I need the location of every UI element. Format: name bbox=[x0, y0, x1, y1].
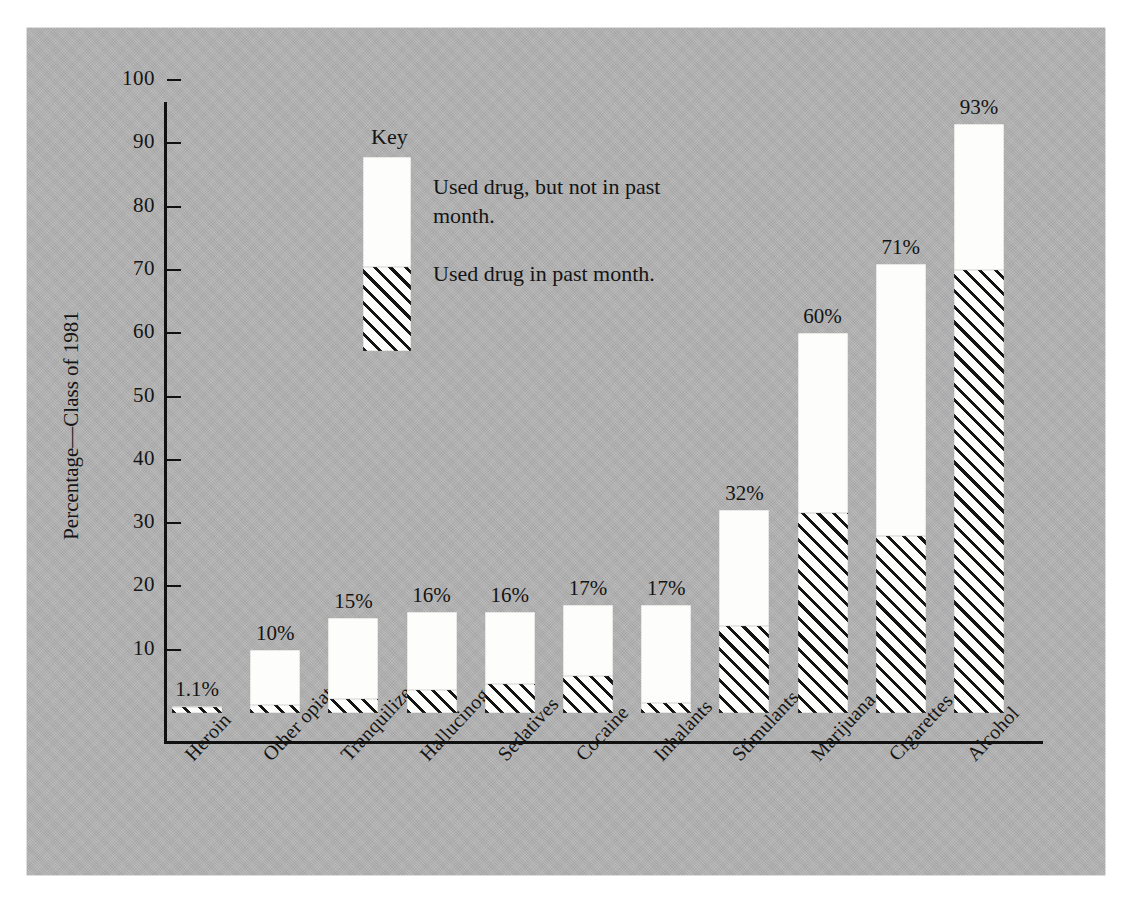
chart-panel: Percentage—Class of 1981 102030405060708… bbox=[27, 28, 1105, 875]
y-tick-label-70: 70 bbox=[109, 256, 155, 281]
bar-segment-white bbox=[798, 333, 848, 513]
y-tick-40 bbox=[167, 459, 181, 461]
legend-label-hatched: Used drug in past month. bbox=[433, 259, 683, 288]
y-tick-label-40: 40 bbox=[109, 446, 155, 471]
bar-segment-hatched bbox=[719, 626, 769, 713]
bar-alcohol[interactable]: 93% bbox=[954, 124, 1004, 713]
bar-segment-white bbox=[876, 264, 926, 536]
bar-segment-white bbox=[719, 510, 769, 625]
y-axis-line bbox=[164, 102, 167, 744]
bar-value-label: 60% bbox=[778, 304, 868, 329]
x-axis-label-heroin: Heroin bbox=[180, 708, 236, 765]
bar-other-opiates[interactable]: 10% bbox=[250, 650, 300, 713]
bar-value-label: 17% bbox=[621, 576, 711, 601]
bar-tranquilizers[interactable]: 15% bbox=[328, 618, 378, 713]
legend-title: Key bbox=[371, 124, 408, 150]
y-tick-80 bbox=[167, 206, 181, 208]
bar-value-label: 1.1% bbox=[152, 677, 242, 702]
bar-sedatives[interactable]: 16% bbox=[485, 612, 535, 713]
bar-segment-hatched bbox=[407, 690, 457, 713]
y-tick-30 bbox=[167, 522, 181, 524]
y-tick-label-80: 80 bbox=[109, 193, 155, 218]
bar-value-label: 71% bbox=[856, 235, 946, 260]
bar-segment-white bbox=[485, 612, 535, 684]
bar-segment-hatched bbox=[876, 536, 926, 713]
y-tick-100 bbox=[167, 79, 181, 81]
bar-inhalants[interactable]: 17% bbox=[641, 605, 691, 713]
bar-segment-white bbox=[250, 650, 300, 706]
bar-segment-hatched bbox=[485, 684, 535, 713]
bar-value-label: 93% bbox=[934, 95, 1024, 120]
y-tick-70 bbox=[167, 269, 181, 271]
bar-segment-white bbox=[328, 618, 378, 699]
y-tick-label-30: 30 bbox=[109, 509, 155, 534]
legend-label-white: Used drug, but not in past month. bbox=[433, 172, 683, 230]
y-tick-label-60: 60 bbox=[109, 319, 155, 344]
bar-value-label: 16% bbox=[465, 583, 555, 608]
y-axis-title: Percentage—Class of 1981 bbox=[59, 276, 84, 576]
bar-value-label: 15% bbox=[308, 589, 398, 614]
y-tick-label-90: 90 bbox=[109, 129, 155, 154]
bar-marijuana[interactable]: 60% bbox=[798, 333, 848, 713]
y-tick-label-20: 20 bbox=[109, 572, 155, 597]
y-tick-label-100: 100 bbox=[109, 66, 155, 91]
plot-area: Percentage—Class of 1981 102030405060708… bbox=[27, 28, 1105, 875]
bar-stimulants[interactable]: 32% bbox=[719, 510, 769, 713]
y-tick-50 bbox=[167, 396, 181, 398]
bar-value-label: 17% bbox=[543, 576, 633, 601]
bar-segment-hatched bbox=[798, 513, 848, 713]
bar-segment-white bbox=[641, 605, 691, 703]
bar-hallucinogens[interactable]: 16% bbox=[407, 612, 457, 713]
y-tick-90 bbox=[167, 142, 181, 144]
bar-segment-white bbox=[407, 612, 457, 690]
bar-value-label: 32% bbox=[699, 481, 789, 506]
bar-value-label: 10% bbox=[230, 621, 320, 646]
bar-segment-white bbox=[954, 124, 1004, 270]
y-tick-label-50: 50 bbox=[109, 383, 155, 408]
legend-swatch-white bbox=[363, 157, 411, 267]
y-tick-10 bbox=[167, 649, 181, 651]
bar-segment-hatched bbox=[563, 676, 613, 713]
legend-swatch-hatched bbox=[363, 267, 411, 351]
bar-value-label: 16% bbox=[387, 583, 477, 608]
y-tick-label-10: 10 bbox=[109, 636, 155, 661]
bar-segment-hatched bbox=[954, 270, 1004, 713]
bar-cocaine[interactable]: 17% bbox=[563, 605, 613, 713]
legend-swatch bbox=[363, 157, 411, 351]
y-tick-20 bbox=[167, 585, 181, 587]
y-tick-60 bbox=[167, 332, 181, 334]
bar-cigarettes[interactable]: 71% bbox=[876, 264, 926, 713]
bar-segment-white bbox=[563, 605, 613, 676]
